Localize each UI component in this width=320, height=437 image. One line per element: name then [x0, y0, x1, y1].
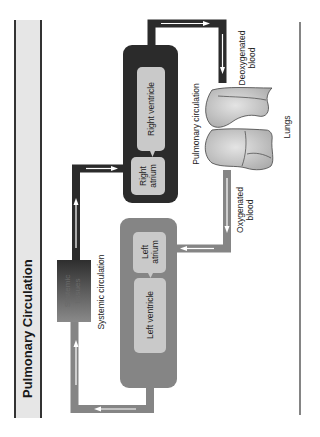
lung-upper: [206, 88, 272, 128]
title-bar: Pulmonary Circulation: [14, 20, 42, 418]
right-atrium-label-line1: Right: [138, 165, 148, 185]
systemic-tissues-label-line2: tissues: [73, 279, 82, 304]
left-atrium-label-line2: atrium: [150, 240, 160, 264]
systemic-tissues-label-line1: Systemic: [63, 275, 72, 307]
right-heart: Right ventricle Right atrium: [123, 45, 178, 203]
lung-lower: [205, 129, 273, 170]
systemic-tissues: Systemic tissues: [57, 260, 91, 322]
systemic-circulation-label: Systemic circulation: [96, 254, 106, 329]
oxygenated-blood-label-line1: Oxygenated: [235, 187, 245, 233]
lungs: [205, 88, 273, 170]
deoxygenated-blood-label-line1: Deoxygenated: [237, 30, 247, 85]
deoxygenated-blood-label-line2: blood: [247, 47, 257, 68]
pulmonary-circulation-label: Pulmonary circulation: [191, 83, 201, 165]
pulmonary-circulation-diagram: Pulmonary Circulation Right ventricle Ri…: [0, 0, 320, 437]
right-ventricle-label: Right ventricle: [146, 82, 156, 136]
vena-cava-vessel: [76, 169, 124, 263]
pulmonary-vein-vessel: [176, 170, 227, 249]
left-heart: Left atrium Left ventricle: [120, 218, 177, 388]
page-title: Pulmonary Circulation: [20, 259, 35, 398]
left-atrium-label-line1: Left: [140, 244, 150, 259]
left-ventricle-label: Left ventricle: [145, 291, 155, 339]
lungs-label: Lungs: [282, 115, 292, 138]
oxygenated-blood-label-line2: blood: [245, 199, 255, 220]
right-atrium-label-line2: atrium: [148, 164, 158, 188]
